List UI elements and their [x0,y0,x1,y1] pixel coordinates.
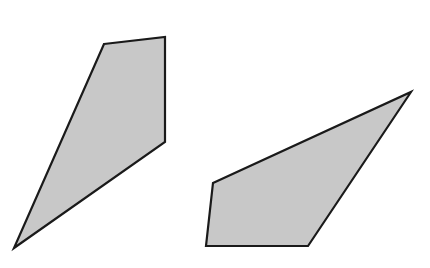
right-quadrilateral [206,92,411,246]
diagram-canvas [0,0,430,268]
left-quadrilateral [14,37,165,248]
